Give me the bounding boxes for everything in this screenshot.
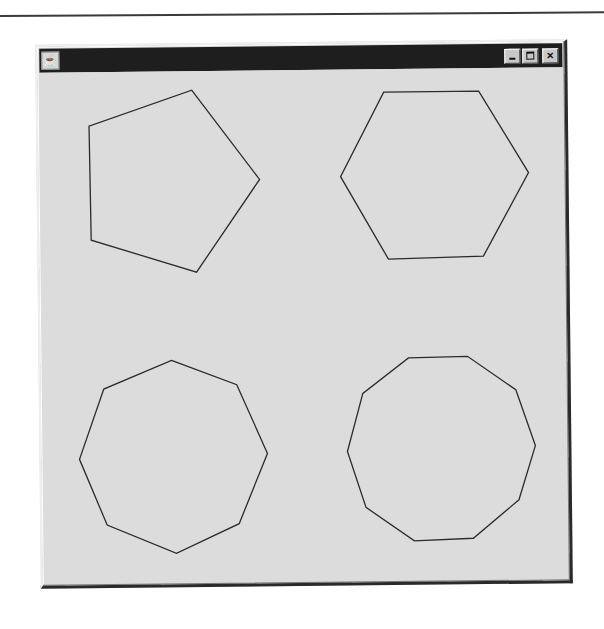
window-controls: × [504,48,558,64]
minimize-icon [509,57,515,59]
drawing-canvas [39,67,567,583]
polygons-drawing [39,67,572,589]
close-button[interactable]: × [542,48,558,63]
hexagon-shape [340,91,530,260]
maximize-icon [526,51,534,59]
window-title [59,56,504,61]
maximize-button[interactable] [522,48,538,63]
close-icon: × [547,48,554,62]
page-top-rule [0,11,604,17]
java-coffee-cup-icon[interactable]: ☕ [41,52,59,70]
pentagon-shape [89,89,261,273]
octagon-shape [78,359,268,554]
decagon-shape [346,356,536,542]
app-window: ☕ × [35,39,573,589]
minimize-button[interactable] [504,48,520,63]
